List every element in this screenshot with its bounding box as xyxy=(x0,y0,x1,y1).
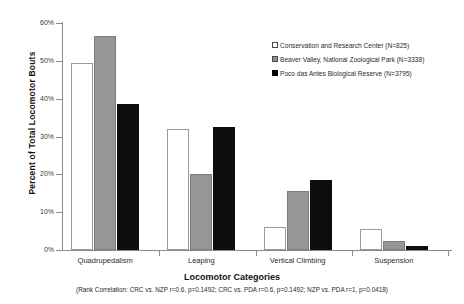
chart-legend: Conservation and Research Center (N=825)… xyxy=(272,38,460,80)
legend-label: Poco das Antes Biological Reserve (N=379… xyxy=(280,70,412,77)
bar xyxy=(360,229,382,250)
legend-item: Beaver Valley, National Zoological Park … xyxy=(272,52,460,66)
y-axis-tick-label: 60% xyxy=(0,19,54,27)
y-axis-tick xyxy=(56,99,63,100)
bar xyxy=(71,63,93,250)
legend-swatch-black xyxy=(272,70,278,76)
bar xyxy=(94,36,116,250)
y-axis-tick-label: 30% xyxy=(0,133,54,141)
legend-label: Conservation and Research Center (N=825) xyxy=(280,42,409,49)
legend-swatch-gray xyxy=(272,56,278,62)
bar-group xyxy=(71,23,139,250)
y-axis-tick-label: 0% xyxy=(0,246,54,254)
y-axis-tick xyxy=(56,137,63,138)
y-axis-tick-label: 20% xyxy=(0,170,54,178)
x-axis-line xyxy=(62,250,452,251)
bar xyxy=(264,227,286,250)
y-axis-tick xyxy=(56,250,63,251)
x-axis-category-label: Suspension xyxy=(330,256,458,265)
y-axis-tick xyxy=(56,23,63,24)
bar xyxy=(406,246,428,250)
y-axis-tick-label: 10% xyxy=(0,208,54,216)
y-axis-tick-label: 40% xyxy=(0,95,54,103)
bar xyxy=(213,127,235,250)
bar xyxy=(310,180,332,250)
y-axis-title: Percent of Total Locomotor Bouts xyxy=(27,23,37,223)
bar-chart-figure: Percent of Total Locomotor Bouts 0%10%20… xyxy=(0,0,464,304)
bar-group xyxy=(167,23,235,250)
statistics-caption: (Rank Correlation: CRC vs. NZP r=0.6, p=… xyxy=(0,286,464,293)
y-axis-tick-label: 50% xyxy=(0,57,54,65)
bar xyxy=(383,241,405,250)
x-axis-title: Locomotor Categories xyxy=(0,272,464,282)
legend-label: Beaver Valley, National Zoological Park … xyxy=(280,56,424,63)
bar xyxy=(117,104,139,250)
bar xyxy=(167,129,189,250)
legend-item: Conservation and Research Center (N=825) xyxy=(272,38,460,52)
y-axis-tick xyxy=(56,212,63,213)
x-axis-tick xyxy=(448,250,449,256)
bar xyxy=(287,191,309,250)
y-axis-tick xyxy=(56,61,63,62)
bar xyxy=(190,174,212,250)
legend-item: Poco das Antes Biological Reserve (N=379… xyxy=(272,66,460,80)
legend-swatch-white xyxy=(272,42,278,48)
y-axis-tick xyxy=(56,174,63,175)
